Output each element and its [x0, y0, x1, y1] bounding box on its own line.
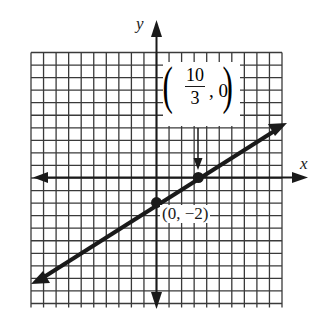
y-axis-arrow-up	[151, 20, 162, 37]
y-axis-arrow-down	[151, 292, 162, 309]
fraction-numerator: 10	[185, 66, 205, 87]
coordinate-plane	[0, 0, 324, 321]
right-paren: )	[222, 60, 232, 112]
x-axis-label: x	[300, 154, 308, 174]
x-intercept-label: ( 10 3 , 0 )	[163, 62, 240, 126]
y-axis-label: y	[136, 14, 144, 34]
fraction-denominator: 3	[185, 87, 205, 108]
fraction: 10 3	[185, 66, 205, 108]
pointer-arrowhead	[194, 158, 203, 170]
point-x-intercept	[193, 172, 204, 183]
x-axis-arrow-left	[33, 172, 48, 183]
left-paren: (	[162, 60, 172, 112]
y-intercept-label: (0, −2)	[160, 205, 210, 223]
